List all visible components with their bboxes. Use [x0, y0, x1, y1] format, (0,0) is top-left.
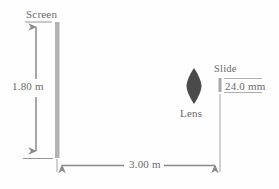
optics-diagram: Screen 1.80 m Lens Slide 24.0 mm 3.00 m	[0, 0, 279, 189]
lens-shape	[187, 68, 202, 104]
slide-height-label: 24.0 mm	[225, 81, 266, 92]
screen-label: Screen	[26, 9, 57, 20]
distance-label: 3.00 m	[126, 159, 164, 170]
slide-label: Slide	[214, 64, 237, 75]
screen-bar	[55, 22, 60, 158]
lens-label: Lens	[180, 108, 202, 119]
slide-bar	[219, 78, 222, 92]
screen-height-label: 1.80 m	[12, 81, 44, 92]
